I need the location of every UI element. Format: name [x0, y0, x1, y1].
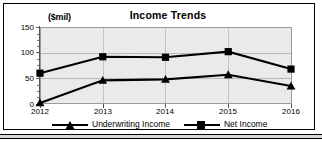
data-point [225, 48, 232, 55]
series-markers-net-income [36, 48, 294, 77]
window-shadow-bar [0, 134, 322, 139]
legend-label-net-income: Net Income [224, 119, 267, 129]
data-point [162, 54, 169, 61]
legend-label-underwriting-income: Underwriting Income [92, 119, 170, 129]
data-point [287, 65, 294, 72]
income-trends-chart: ($mil) Income Trends 150 100 50 0 2012 2… [0, 0, 322, 142]
legend-entry-underwriting-income[interactable]: Underwriting Income [52, 119, 170, 129]
triangle-marker-icon [52, 120, 88, 129]
series-markers-underwriting-income [36, 70, 296, 106]
data-point [99, 53, 106, 60]
chart-legend: Underwriting Income Net Income [52, 118, 282, 130]
legend-entry-net-income[interactable]: Net Income [184, 119, 267, 129]
square-marker-icon [184, 120, 220, 129]
data-point [36, 70, 43, 77]
